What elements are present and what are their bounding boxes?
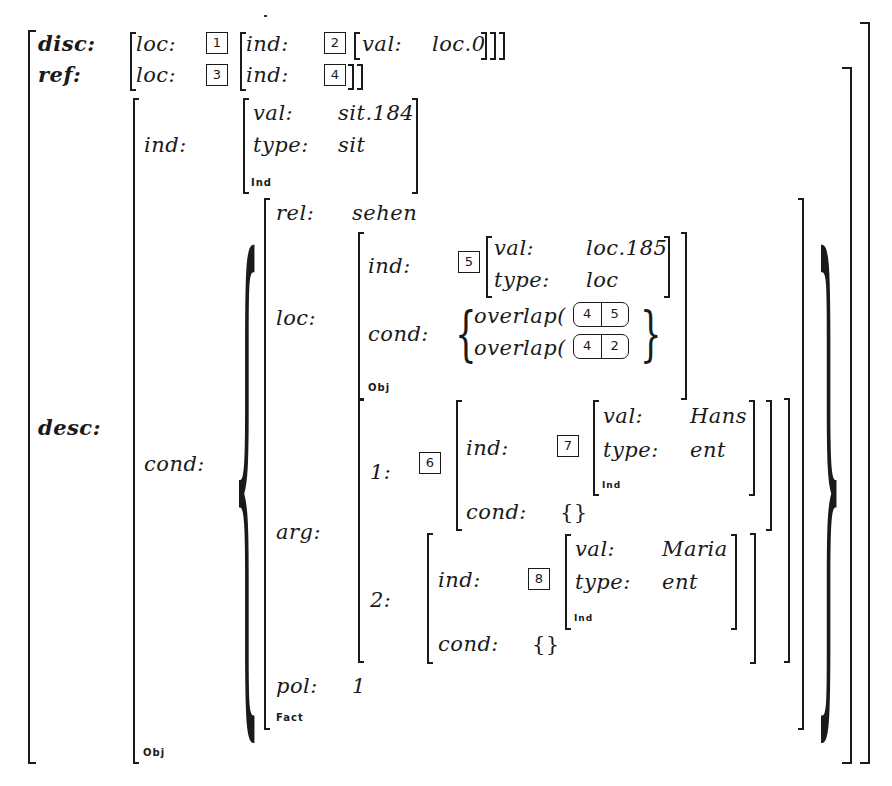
tag-7: 7 (557, 435, 579, 457)
tag-2: 2 (324, 32, 346, 54)
loc-cond-label: cond: (368, 322, 429, 346)
ref-close-1 (348, 64, 354, 90)
ref-label: ref: (38, 63, 81, 87)
arg-1-cond-value: {} (560, 500, 588, 524)
arg-1-ind-label: ind: (466, 436, 509, 460)
arg-1-ind-sort: Ind (602, 479, 621, 491)
disc-close-2 (490, 32, 496, 60)
loc-ind-left-bracket (486, 236, 492, 298)
arg-2-left-bracket (427, 533, 433, 664)
overlap-2-arg-a: 4 (574, 335, 602, 358)
arg-1-val-value: Hans (690, 404, 747, 428)
loc-ind-label: ind: (368, 254, 411, 278)
loc-ind-type-value: loc (586, 268, 619, 292)
arg-2-ind-right-bracket (731, 534, 737, 630)
stray-mark (264, 15, 267, 17)
arg-right-bracket (784, 398, 790, 663)
desc-right-bracket (842, 67, 852, 764)
overlap-set-right-brace: } (640, 303, 662, 363)
fact-left-bracket (264, 198, 270, 730)
loc-ind-right-bracket (664, 236, 670, 298)
tag-6: 6 (419, 452, 441, 474)
ref-ind-label: ind: (246, 63, 289, 87)
arg-2-type-label: type: (575, 570, 631, 594)
arg-1-left-bracket (456, 400, 462, 531)
pol-label: pol: (276, 674, 318, 698)
disc-close-3 (499, 32, 505, 60)
fact-sort: Fact (276, 712, 304, 724)
arg-2-label: 2: (370, 588, 391, 612)
overlap-1-fn: overlap( (474, 304, 566, 328)
arg-2-val-label: val: (575, 537, 615, 561)
desc-label: desc: (38, 416, 101, 440)
disc-close-1 (481, 32, 487, 60)
desc-obj-left-bracket (133, 98, 139, 764)
arg-2-ind-sort: Ind (574, 612, 593, 624)
cond-set-left-brace: { (234, 196, 259, 736)
loc-right-bracket (681, 232, 687, 400)
overlap-2-args: 4 2 (573, 334, 629, 359)
overlap-2-fn: overlap( (474, 336, 566, 360)
outer-right-bracket (860, 22, 870, 764)
desc-ind-right-bracket (412, 98, 418, 194)
arg-2-val-value: Maria (662, 537, 728, 561)
disc-val-left-bracket (354, 32, 360, 60)
desc-ind-label: ind: (144, 133, 187, 157)
arg-label: arg: (276, 520, 321, 544)
ref-loc-label: loc: (136, 63, 176, 87)
arg-1-ind-right-bracket (749, 400, 755, 496)
tag-5: 5 (458, 251, 480, 273)
tag-1: 1 (206, 32, 228, 54)
fact-right-bracket (798, 198, 804, 730)
arg-1-val-label: val: (603, 404, 643, 428)
rel-value: sehen (352, 201, 417, 225)
arg-1-label: 1: (370, 460, 391, 484)
arg-1-type-value: ent (690, 438, 726, 462)
disc-loc-label: loc: (136, 32, 176, 56)
rel-label: rel: (276, 201, 314, 225)
tag-8: 8 (528, 568, 550, 590)
arg-1-cond-label: cond: (466, 500, 527, 524)
tag-4: 4 (324, 64, 346, 86)
loc-ind-val-value: loc.185 (586, 236, 667, 260)
overlap-2-arg-b: 2 (602, 335, 629, 358)
loc-left-bracket (358, 232, 364, 400)
arg-2-right-bracket (750, 533, 756, 664)
desc-ind-val-label: val: (253, 101, 293, 125)
desc-ind-type-value: sit (338, 133, 365, 157)
arg-2-ind-label: ind: (438, 568, 481, 592)
arg-2-ind-left-bracket (565, 534, 571, 630)
loc-label: loc: (276, 306, 316, 330)
desc-sort-obj: Obj (143, 747, 165, 759)
desc-ind-val-value: sit.184 (338, 101, 414, 125)
disc-val-label: val: (362, 32, 402, 56)
desc-cond-label: cond: (144, 452, 205, 476)
outer-left-bracket (28, 30, 36, 163)
disc-label: disc: (38, 32, 96, 56)
cond-set-right-brace: } (816, 196, 841, 736)
overlap-1-arg-a: 4 (574, 303, 602, 326)
arg-2-cond-value: {} (532, 632, 560, 656)
desc-ind-type-label: type: (253, 133, 309, 157)
pol-value: 1 (352, 674, 366, 698)
arg-1-type-label: type: (603, 438, 659, 462)
overlap-1-args: 4 5 (573, 302, 629, 327)
arg-2-type-value: ent (662, 570, 698, 594)
arg-2-cond-label: cond: (438, 632, 499, 656)
loc-ind-type-label: type: (494, 268, 550, 292)
arg-1-right-bracket (766, 400, 772, 531)
tag-3: 3 (206, 64, 228, 86)
arg-1-ind-left-bracket (593, 400, 599, 496)
loc-sort: Obj (368, 382, 390, 394)
disc-val-value: loc.0 (432, 32, 486, 56)
disc-ind-label: ind: (246, 32, 289, 56)
overlap-1-arg-b: 5 (602, 303, 629, 326)
arg-left-bracket (358, 398, 364, 663)
loc-ind-val-label: val: (494, 236, 534, 260)
outer-left-bracket-lower (28, 161, 36, 764)
ref-close-2 (357, 64, 363, 90)
